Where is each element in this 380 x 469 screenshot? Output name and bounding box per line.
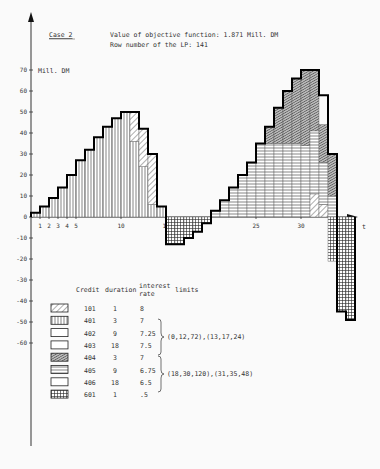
legend-swatch-icon xyxy=(51,329,68,337)
row-number: Row number of the LP: 141 xyxy=(110,41,208,49)
bar-segment xyxy=(76,160,85,217)
bar-segment xyxy=(103,127,112,217)
limits-group-2: (18,30,120),(31,35,48) xyxy=(167,370,253,378)
y-tick-label: 20 xyxy=(20,171,28,178)
bar-segment xyxy=(94,137,103,217)
bar-segment xyxy=(256,144,265,218)
bar-segment xyxy=(274,108,283,144)
bar-segment xyxy=(337,217,346,312)
y-axis: 706050403020100-10-20-30-40-50-60 xyxy=(16,12,34,446)
legend-swatch-icon xyxy=(51,390,68,398)
bar-segment xyxy=(265,144,274,218)
legend-duration: 1 xyxy=(113,391,117,399)
bar-segment xyxy=(49,198,58,217)
legend-rate: .5 xyxy=(140,391,148,399)
legend-credit: 404 xyxy=(84,354,96,362)
bar-segment xyxy=(85,150,94,217)
bar-segment xyxy=(292,144,301,218)
bar-segment xyxy=(247,162,256,217)
y-tick-label: -20 xyxy=(16,255,27,262)
legend-header-limits: limits xyxy=(175,286,199,294)
legend-rate: 8 xyxy=(140,305,144,313)
y-tick-label: 70 xyxy=(20,66,28,73)
legend-duration: 3 xyxy=(113,317,117,325)
bar-segment xyxy=(328,154,337,196)
bar-segment xyxy=(319,125,328,163)
x-tick-label: 5 xyxy=(74,222,78,229)
legend-credit: 601 xyxy=(84,391,96,399)
legend-duration: 18 xyxy=(111,342,119,350)
y-tick-label: 0 xyxy=(23,213,27,220)
x-axis-label: t xyxy=(362,223,366,231)
legend-row: 406186.5 xyxy=(51,378,152,387)
chart-canvas: 706050403020100-10-20-30-40-50-60 123451… xyxy=(0,0,380,469)
bar-segment xyxy=(310,131,319,194)
bar-segment xyxy=(238,175,247,217)
y-tick-label: -50 xyxy=(16,318,27,325)
legend-duration: 9 xyxy=(113,367,117,375)
y-tick-label: -40 xyxy=(16,297,27,304)
x-tick-label: 10 xyxy=(117,222,125,229)
bar-segment xyxy=(130,141,139,217)
bar-segment xyxy=(112,118,121,217)
bar-segment xyxy=(328,196,337,217)
bar-segment xyxy=(40,207,49,218)
bar-segment xyxy=(148,204,157,217)
x-tick-label: 30 xyxy=(297,222,305,229)
legend-swatch-icon xyxy=(51,316,68,324)
bar-segment xyxy=(301,146,310,217)
bar-segment xyxy=(58,188,67,217)
legend-header-duration: duration xyxy=(105,286,136,294)
legend-credit: 405 xyxy=(84,367,96,375)
bar-segment xyxy=(292,78,301,143)
legend-row: 40137 xyxy=(51,316,144,325)
legend-rate: 7 xyxy=(140,354,144,362)
legend-rate: 7.25 xyxy=(140,330,156,338)
bar-segment xyxy=(67,175,76,217)
bar-segment xyxy=(193,217,202,232)
bar-segment xyxy=(175,217,184,244)
bar-segment xyxy=(274,144,283,218)
bar-segment xyxy=(346,217,355,320)
bar-segment xyxy=(166,217,175,244)
bar-segment xyxy=(283,91,292,144)
legend-credit: 406 xyxy=(84,379,96,387)
y-tick-label: -30 xyxy=(16,276,27,283)
bar-segment xyxy=(139,167,148,217)
y-axis-arrow-icon xyxy=(28,12,34,22)
bar-segment xyxy=(130,112,139,141)
legend-header-rate2: rate xyxy=(139,290,155,298)
y-tick-label: 50 xyxy=(20,108,28,115)
bar-segment xyxy=(121,112,130,217)
x-tick-label: 1 xyxy=(38,222,42,229)
legend-swatch-icon xyxy=(51,378,68,386)
legend-credit: 403 xyxy=(84,342,96,350)
legend-credit: 401 xyxy=(84,317,96,325)
bar-segment xyxy=(310,194,319,217)
legend-swatch-icon xyxy=(51,366,68,374)
bar-segment xyxy=(184,217,193,238)
legend-row: 6011.5 xyxy=(51,390,148,399)
y-tick-label: 30 xyxy=(20,150,28,157)
x-tick-label: 4 xyxy=(65,222,69,229)
bar-segment xyxy=(310,70,319,131)
bar-segment xyxy=(220,200,229,217)
bar-segment xyxy=(283,144,292,218)
x-tick-label: 3 xyxy=(56,222,60,229)
bar-segment xyxy=(319,162,328,204)
legend-credit: 402 xyxy=(84,330,96,338)
legend-row: 40437 xyxy=(51,353,144,362)
y-tick-label: -60 xyxy=(16,339,27,346)
legend-row: 40297.25 xyxy=(51,329,156,338)
legend-rate: 6.5 xyxy=(140,379,152,387)
legend-credit: 101 xyxy=(84,305,96,313)
bar-segment xyxy=(328,217,337,261)
bar-segment xyxy=(301,70,310,146)
legend-row: 10118 xyxy=(51,304,144,313)
y-unit-label: Mill. DM xyxy=(38,67,69,75)
bar-segment xyxy=(157,207,166,218)
x-tick-label: 2 xyxy=(47,222,51,229)
legend-swatch-icon xyxy=(51,304,68,312)
y-tick-label: 10 xyxy=(20,192,28,199)
legend-duration: 18 xyxy=(111,379,119,387)
